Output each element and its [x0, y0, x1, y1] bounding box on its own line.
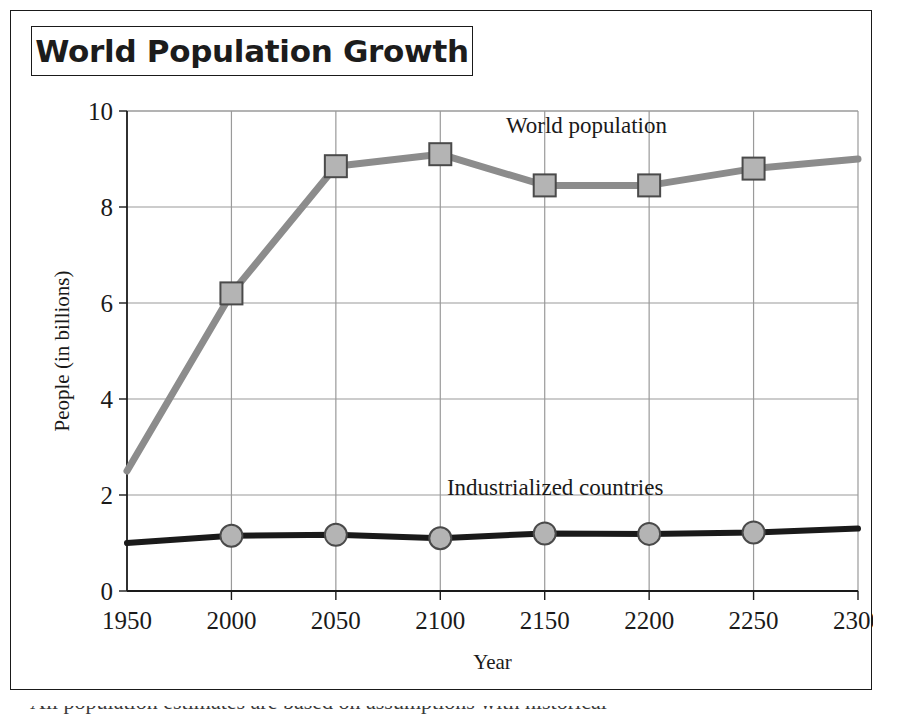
x-tick-label: 2250: [729, 607, 779, 634]
gridlines: [127, 111, 858, 591]
y-tick-label: 4: [101, 386, 114, 413]
data-point-marker: [325, 524, 347, 546]
data-point-marker: [325, 155, 347, 177]
y-axis-title: People (in billions): [50, 271, 74, 432]
data-point-marker: [220, 525, 242, 547]
data-point-marker: [534, 522, 556, 544]
x-tick-label: 2100: [415, 607, 465, 634]
x-axis-title: Year: [473, 650, 512, 674]
data-point-marker: [638, 523, 660, 545]
x-tick-label: 2000: [206, 607, 256, 634]
y-tick-label: 0: [101, 578, 114, 605]
x-tick-label: 2050: [311, 607, 361, 634]
series-line-1: [127, 154, 858, 471]
x-tick-label: 2150: [520, 607, 570, 634]
y-axis-ticks: 0246810: [88, 98, 127, 605]
y-tick-label: 6: [101, 290, 114, 317]
x-tick-label: 1950: [102, 607, 152, 634]
x-axis-ticks: 19502000205021002150220022502300: [102, 591, 873, 634]
chart-plot-area: 0246810 19502000205021002150220022502300…: [11, 11, 873, 691]
data-point-marker: [743, 521, 765, 543]
axis-lines: [127, 111, 858, 591]
series-label-1: World population: [506, 113, 668, 138]
y-tick-label: 10: [88, 98, 113, 125]
data-point-marker: [429, 527, 451, 549]
x-tick-label: 2200: [624, 607, 674, 634]
caption-text: All population estimates are based on as…: [30, 706, 607, 715]
data-point-marker: [534, 174, 556, 196]
cut-off-caption: All population estimates are based on as…: [0, 706, 900, 725]
y-tick-label: 2: [101, 482, 114, 509]
data-point-marker: [638, 174, 660, 196]
x-tick-label: 2300: [833, 607, 873, 634]
data-point-marker: [429, 143, 451, 165]
data-point-marker: [743, 158, 765, 180]
series-label-2: Industrialized countries: [447, 475, 664, 500]
data-point-marker: [220, 282, 242, 304]
series-inline-labels: World populationIndustrialized countries: [447, 113, 668, 500]
figure-frame: World Population Growth 0246810 19502000…: [10, 10, 872, 690]
line-chart-svg: 0246810 19502000205021002150220022502300…: [11, 11, 873, 691]
y-tick-label: 8: [101, 194, 114, 221]
